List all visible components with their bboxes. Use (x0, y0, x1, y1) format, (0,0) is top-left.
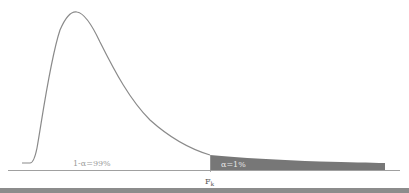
acceptance-region-label: 1-α=99% (73, 159, 111, 168)
rejection-region-label: α=1% (221, 160, 246, 169)
critical-value-label: Fk (205, 177, 215, 187)
bottom-border-bar (0, 188, 409, 193)
f-distribution-chart: 1-α=99% α=1% Fk (0, 0, 409, 193)
critical-value-subscript: k (211, 180, 215, 187)
density-curve (22, 12, 210, 163)
